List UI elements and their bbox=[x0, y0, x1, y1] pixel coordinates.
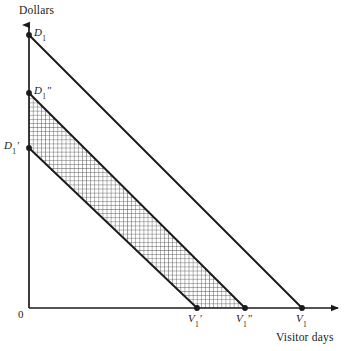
label-v1-double-prime: V1″ bbox=[236, 312, 253, 327]
label-d1p-base: D bbox=[4, 139, 12, 151]
marker-v1 bbox=[299, 305, 305, 311]
origin-label: 0 bbox=[18, 308, 24, 320]
label-d1: D1 bbox=[34, 26, 47, 41]
demand-line-d1-prime bbox=[29, 148, 197, 308]
label-d1dp-sub: 1 bbox=[42, 92, 46, 101]
chart-canvas bbox=[0, 0, 354, 351]
label-v1: V1 bbox=[296, 312, 308, 327]
label-v1dp-prime-mark: ″ bbox=[246, 312, 252, 324]
label-d1-prime: D1′ bbox=[4, 139, 20, 154]
label-v1p-prime-mark: ′ bbox=[198, 312, 202, 324]
marker-v1-double-prime bbox=[242, 305, 248, 311]
marker-d1-prime bbox=[26, 145, 32, 151]
label-v1p-sub: 1 bbox=[195, 320, 199, 329]
x-axis-title: Visitor days bbox=[276, 331, 334, 343]
demand-line-d1-double-prime bbox=[29, 93, 245, 308]
label-d1-sub: 1 bbox=[42, 34, 46, 43]
label-v1-sub: 1 bbox=[303, 320, 307, 329]
label-d1p-sub: 1 bbox=[12, 147, 16, 156]
label-v1dp-sub: 1 bbox=[243, 320, 247, 329]
label-v1-base: V bbox=[296, 312, 303, 324]
y-axis-title: Dollars bbox=[19, 4, 54, 16]
label-d1dp-base: D bbox=[34, 84, 42, 96]
label-v1-prime: V1′ bbox=[188, 312, 202, 327]
label-d1-base: D bbox=[34, 26, 42, 38]
label-d1-double-prime: D1″ bbox=[34, 84, 52, 99]
marker-d1 bbox=[26, 32, 32, 38]
label-d1p-prime-mark: ′ bbox=[16, 139, 20, 151]
label-v1dp-base: V bbox=[236, 312, 243, 324]
label-v1p-base: V bbox=[188, 312, 195, 324]
marker-d1-double-prime bbox=[26, 90, 32, 96]
label-d1dp-prime-mark: ″ bbox=[46, 84, 52, 96]
economics-demand-curve-figure: Dollars Visitor days 0 D1 D1″ D1′ V1′ V1… bbox=[0, 0, 354, 351]
marker-v1-prime bbox=[194, 305, 200, 311]
